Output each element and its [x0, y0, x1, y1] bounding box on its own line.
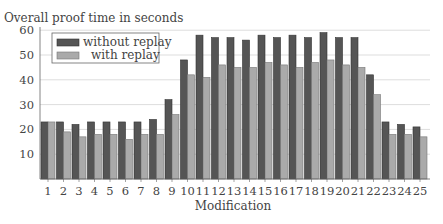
legend-label-without-replay: without replay [83, 35, 172, 49]
bar-with-replay [389, 134, 396, 179]
x-tick-label: 10 [180, 184, 195, 198]
x-tick-label: 16 [273, 184, 288, 198]
bar-with-replay [234, 67, 241, 179]
x-tick-label: 23 [382, 184, 397, 198]
bar-with-replay [420, 137, 427, 179]
bar-without-replay [119, 122, 126, 179]
bar-with-replay [64, 132, 71, 179]
bar-without-replay [57, 122, 64, 179]
bar-with-replay [188, 75, 195, 179]
bar-without-replay [274, 38, 281, 179]
bar-without-replay [150, 119, 157, 179]
bar-with-replay [95, 134, 102, 179]
bar-without-replay [398, 124, 405, 179]
y-tick-label: 60 [19, 23, 34, 37]
x-tick-label: 21 [351, 184, 366, 198]
x-axis-ticks: 1234567891011121314151617181920212223242… [44, 179, 427, 198]
bar-with-replay [219, 65, 226, 179]
x-tick-label: 8 [153, 184, 160, 198]
x-tick-label: 12 [211, 184, 226, 198]
bar-without-replay [181, 60, 188, 179]
bar-without-replay [72, 124, 79, 179]
bar-with-replay [374, 95, 381, 179]
bar-with-replay [141, 134, 148, 179]
bar-without-replay [41, 122, 48, 179]
bar-without-replay [320, 33, 327, 179]
x-tick-label: 1 [44, 184, 51, 198]
bar-without-replay [413, 127, 420, 179]
x-tick-label: 14 [242, 184, 257, 198]
bar-with-replay [203, 77, 210, 179]
x-tick-label: 13 [227, 184, 242, 198]
x-tick-label: 20 [335, 184, 350, 198]
x-tick-label: 5 [106, 184, 113, 198]
legend-swatch-with-replay [57, 52, 79, 59]
x-tick-label: 25 [413, 184, 428, 198]
x-tick-label: 22 [366, 184, 381, 198]
bar-without-replay [88, 122, 95, 179]
bar-without-replay [289, 35, 296, 179]
bar-without-replay [243, 40, 250, 179]
bar-with-replay [312, 62, 319, 179]
bar-with-replay [405, 134, 412, 179]
bar-with-replay [48, 122, 55, 179]
bar-with-replay [281, 65, 288, 179]
x-tick-label: 4 [91, 184, 98, 198]
y-tick-label: 20 [19, 122, 34, 136]
bar-with-replay [110, 134, 117, 179]
legend: without replay with replay [52, 33, 172, 63]
bar-without-replay [367, 75, 374, 179]
x-tick-label: 15 [258, 184, 273, 198]
bar-without-replay [134, 122, 141, 179]
bar-without-replay [227, 38, 234, 179]
bar-without-replay [382, 122, 389, 179]
bar-with-replay [79, 137, 86, 179]
y-axis-ticks: 102030405060 [19, 23, 34, 161]
legend-swatch-without-replay [57, 39, 79, 46]
bar-with-replay [157, 134, 164, 179]
x-tick-label: 19 [320, 184, 335, 198]
bar-without-replay [336, 38, 343, 179]
bar-without-replay [196, 35, 203, 179]
bar-with-replay [265, 62, 272, 179]
x-tick-label: 24 [397, 184, 412, 198]
bar-chart: Overall proof time in seconds 1020304050… [0, 0, 443, 224]
x-tick-label: 18 [304, 184, 319, 198]
y-tick-label: 50 [19, 48, 34, 62]
bar-without-replay [103, 122, 110, 179]
x-tick-label: 6 [122, 184, 129, 198]
x-tick-label: 9 [168, 184, 175, 198]
bar-without-replay [351, 38, 358, 179]
y-tick-label: 10 [19, 147, 34, 161]
y-tick-label: 30 [19, 98, 34, 112]
bar-without-replay [212, 38, 219, 179]
bar-without-replay [165, 100, 172, 179]
bar-with-replay [358, 67, 365, 179]
bar-with-replay [343, 65, 350, 179]
x-tick-label: 17 [289, 184, 304, 198]
bar-without-replay [305, 38, 312, 179]
bar-with-replay [172, 115, 179, 179]
x-tick-label: 11 [196, 184, 211, 198]
bar-with-replay [250, 67, 257, 179]
bar-with-replay [327, 60, 334, 179]
x-tick-label: 2 [60, 184, 67, 198]
bar-without-replay [258, 35, 265, 179]
x-tick-label: 7 [137, 184, 144, 198]
bar-with-replay [126, 139, 133, 179]
x-axis-label: Modification [195, 199, 272, 213]
legend-label-with-replay: with replay [91, 48, 160, 62]
x-tick-label: 3 [75, 184, 82, 198]
y-tick-label: 40 [19, 73, 34, 87]
bar-with-replay [296, 67, 303, 179]
